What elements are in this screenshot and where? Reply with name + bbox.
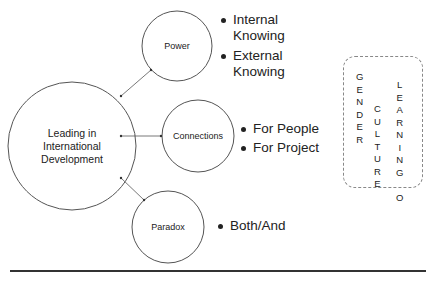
connections-label: Connections	[163, 131, 233, 142]
paradox-bullets: Both/And	[217, 218, 327, 238]
letter: L	[397, 79, 402, 92]
letter: E	[357, 121, 363, 134]
bullet-item: Both/And	[217, 218, 327, 234]
letter: E	[357, 84, 363, 97]
paradox-label: Paradox	[133, 222, 203, 233]
letter: R	[374, 166, 381, 179]
letter: N	[396, 154, 403, 167]
lens-learning: L E A R N I N G O	[396, 79, 403, 204]
lenses-box	[343, 56, 423, 188]
arrow-center-paradox	[121, 178, 144, 200]
arrow-center-power	[121, 70, 151, 96]
letter: G	[356, 71, 363, 84]
letter: E	[374, 178, 380, 191]
letter: O	[396, 192, 403, 205]
letter: D	[356, 109, 363, 122]
bottom-divider	[10, 270, 426, 272]
letter: I	[398, 142, 401, 155]
lens-gender: G E N D E R	[356, 71, 363, 146]
letter: L	[375, 128, 380, 141]
letter: E	[397, 92, 403, 105]
letter: R	[356, 134, 363, 147]
letter: A	[397, 104, 403, 117]
letter: N	[396, 129, 403, 142]
letter: U	[374, 116, 381, 129]
bullet-item: For Project	[240, 140, 350, 156]
connections-bullets: For People For Project	[240, 121, 350, 160]
letter: U	[374, 153, 381, 166]
power-label: Power	[142, 41, 212, 52]
letter: C	[374, 103, 381, 116]
lens-culture: C U L T U R E	[374, 103, 381, 191]
bullet-item: External Knowing	[220, 48, 330, 80]
center-label: Leading in International Development	[20, 127, 124, 166]
bullet-item: For People	[240, 121, 350, 137]
letter: R	[396, 117, 403, 130]
letter: N	[356, 96, 363, 109]
letter: T	[375, 141, 381, 154]
letter: G	[396, 167, 403, 180]
bullet-item: Internal Knowing	[220, 12, 330, 44]
power-bullets: Internal Knowing External Knowing	[220, 12, 330, 84]
